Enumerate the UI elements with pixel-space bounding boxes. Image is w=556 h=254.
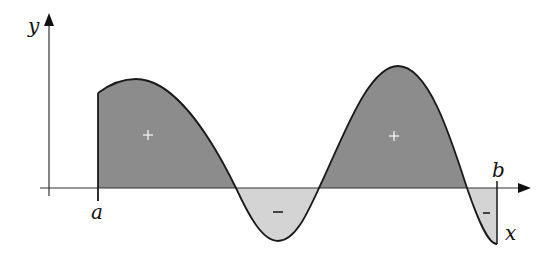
x-axis-label: x [505, 221, 516, 245]
signed-area-diagram: y x a b [0, 0, 556, 254]
y-axis-arrow-icon [44, 13, 54, 26]
lower-bound-label: a [91, 200, 103, 224]
upper-bound-label: b [492, 158, 505, 182]
x-axis-arrow-icon [518, 183, 531, 193]
y-axis-label: y [27, 14, 40, 38]
